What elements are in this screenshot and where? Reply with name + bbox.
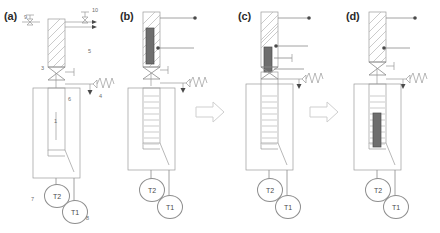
outer-vessel-6 [354,84,401,170]
panel-a: (a) [0,0,118,233]
valve-3-symbol [369,62,394,75]
thermocouple-t1: T1 [62,200,88,224]
valve-10-symbol [65,12,97,29]
panel-d: (d) [344,0,440,233]
panel-b: (b) [118,0,230,233]
panel-c: (c) [236,0,344,233]
callout-5: 5 [88,48,91,54]
callout-7: 7 [31,196,34,202]
callout-9: 9 [24,14,27,20]
callout-8: 8 [86,215,89,221]
callout-6: 6 [68,96,71,102]
callout-3: 3 [41,65,44,71]
thermocouple-t1: T1 [383,195,409,219]
callout-1: 1 [54,118,57,124]
valve-3-symbol [48,67,74,80]
outer-vessel-6 [33,88,80,178]
transition-arrow-c-d [236,0,344,233]
callout-4: 4 [99,93,102,99]
upper-loading-tube [48,19,65,67]
callout-10: 10 [92,7,98,13]
upper-loading-tube [369,12,386,62]
transition-arrow-b-c [118,0,230,233]
leader-lines [382,16,417,50]
